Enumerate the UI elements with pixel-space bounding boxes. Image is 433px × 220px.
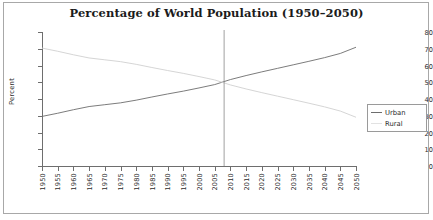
legend-item-rural: Rural [371, 118, 403, 129]
chart-legend: Urban Rural [367, 104, 427, 132]
legend-swatch-urban [371, 112, 382, 113]
legend-item-urban: Urban [371, 107, 406, 118]
legend-swatch-rural [371, 123, 382, 124]
legend-label-urban: Urban [385, 109, 406, 117]
chart-figure: Percentage of World Population (1950–205… [0, 0, 433, 220]
legend-label-rural: Rural [385, 120, 403, 128]
